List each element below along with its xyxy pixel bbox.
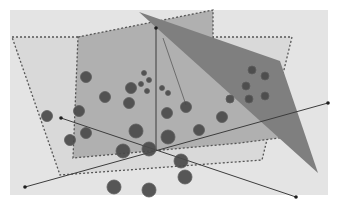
data-point xyxy=(161,130,175,144)
data-point xyxy=(116,144,130,158)
axis-endpoint-marker xyxy=(294,195,298,199)
data-point xyxy=(142,142,156,156)
data-point xyxy=(145,89,150,94)
data-point xyxy=(166,91,171,96)
data-point xyxy=(160,86,165,91)
axis-endpoint-marker xyxy=(23,185,27,189)
data-point xyxy=(242,82,250,90)
data-point xyxy=(107,180,121,194)
data-point xyxy=(142,183,156,197)
data-point xyxy=(100,92,111,103)
data-point xyxy=(248,66,256,74)
data-point xyxy=(81,128,92,139)
data-point xyxy=(181,102,192,113)
data-point xyxy=(245,95,253,103)
data-point xyxy=(194,125,205,136)
data-point xyxy=(74,106,85,117)
data-point xyxy=(65,135,76,146)
data-point xyxy=(142,71,147,76)
data-point xyxy=(162,108,173,119)
data-point xyxy=(81,72,92,83)
data-point xyxy=(129,124,143,138)
axis-endpoint-marker xyxy=(59,116,63,120)
diagram-canvas xyxy=(0,0,338,209)
data-point xyxy=(124,98,135,109)
data-point xyxy=(139,82,144,87)
data-point xyxy=(126,83,137,94)
data-point xyxy=(42,111,53,122)
data-point xyxy=(178,170,192,184)
data-point xyxy=(217,112,228,123)
data-point xyxy=(226,95,234,103)
axis-endpoint-marker xyxy=(326,101,330,105)
data-point xyxy=(147,78,152,83)
axis-endpoint-marker xyxy=(154,26,158,30)
data-point xyxy=(174,154,188,168)
hyperplane-diagram xyxy=(0,0,338,209)
data-point xyxy=(261,72,269,80)
data-point xyxy=(261,92,269,100)
